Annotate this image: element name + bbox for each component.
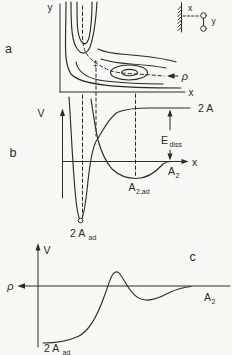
reaction-path-potential-curve xyxy=(43,272,191,343)
panel-b-label: b xyxy=(10,146,17,160)
ediss-arrow-lower-head xyxy=(168,154,173,161)
panel-a: a y x ρ ‡ x y xyxy=(5,2,216,98)
twoaad-label-panel-c: 2 A ad xyxy=(44,342,70,355)
a2-label-base: A xyxy=(168,165,175,177)
twoaad-label-sub: ad xyxy=(89,234,97,241)
a2ad-label: A 2,ad xyxy=(129,181,150,195)
panel-b-v-axis-label: V xyxy=(37,107,44,119)
a2ad-label-base: A xyxy=(129,181,136,193)
contour-entrance-valley-inner xyxy=(77,2,92,44)
a2-label-panel-b: A 2 xyxy=(168,165,180,179)
twoaad-label-c-sub: ad xyxy=(63,349,71,355)
panel-c: c V ρ A 2 2 A ad xyxy=(6,243,230,355)
ediss-label: E diss xyxy=(161,134,182,148)
rho-label-panel-a: ρ xyxy=(181,70,188,82)
a2-label-c-base: A xyxy=(204,291,211,303)
panel-b-x-axis-arrow xyxy=(182,159,189,164)
twoaad-label-panel-b: 2 A ad xyxy=(70,227,96,241)
panel-a-y-axis-label: y xyxy=(48,2,53,13)
panel-b: b V x 2 A E diss A 2 A 2,ad 2 xyxy=(10,97,214,241)
a2-label-panel-c: A 2 xyxy=(204,291,216,305)
contour-upper-channel-wall-1 xyxy=(98,49,176,62)
rho-label-panel-c: ρ xyxy=(6,280,13,292)
ediss-arrow-upper-head xyxy=(168,110,173,117)
precursor-well-contour-inner xyxy=(122,69,138,75)
a2-label-sub: 2 xyxy=(176,172,180,179)
inset-atom-circle-bottom xyxy=(201,26,207,32)
figure-canvas: a y x ρ ‡ x y xyxy=(0,0,232,355)
panel-c-rho-axis-arrow xyxy=(18,283,26,288)
inset-y-label: y xyxy=(211,16,216,26)
level-2a-label: 2 A xyxy=(198,102,213,114)
panel-a-x-axis-label: x xyxy=(189,87,194,98)
a2ad-label-sub: 2,ad xyxy=(136,188,150,195)
lennard-jones-adsorption-figure: a y x ρ ‡ x y xyxy=(0,0,232,355)
panel-a-label: a xyxy=(5,42,12,56)
deep-well-minimum-circle xyxy=(78,218,83,223)
a2-label-c-sub: 2 xyxy=(212,298,216,305)
contour-entrance-valley-outer xyxy=(71,2,97,53)
ediss-label-sub: diss xyxy=(170,141,183,148)
panel-c-v-axis-arrow xyxy=(36,243,41,251)
twoaad-label-base: 2 A xyxy=(70,227,85,239)
transition-state-marker: ‡ xyxy=(93,58,98,69)
inset-x-label: x xyxy=(188,3,193,13)
ediss-label-base: E xyxy=(161,134,168,146)
rho-arrow-head xyxy=(167,73,175,79)
panel-c-label: c xyxy=(189,250,195,264)
inset-surface-hatching xyxy=(178,6,182,31)
panel-b-x-axis-label: x xyxy=(192,156,198,168)
contour-upper-channel-wall-2 xyxy=(101,59,166,68)
panel-b-v-axis-arrow xyxy=(60,109,65,117)
surface-coordinate-inset: x y xyxy=(178,3,216,33)
inset-atom-circle-top xyxy=(201,13,207,19)
twoaad-label-c-base: 2 A xyxy=(44,342,59,354)
panel-guide-lines xyxy=(83,68,136,217)
molecular-potential-curve xyxy=(91,99,171,179)
panel-c-v-axis-label: V xyxy=(43,244,50,256)
